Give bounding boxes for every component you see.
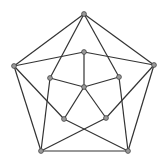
edge-I-J [64,87,84,119]
edge-B-F [14,52,84,66]
edge-C-F [84,52,154,65]
node-J [62,117,67,122]
node-E [126,149,131,154]
edge-G-D [41,78,50,151]
node-F [82,50,87,55]
edge-C-K [106,65,154,118]
node-D [39,149,44,154]
edge-B-D [14,66,41,151]
edge-H-I [84,77,119,87]
node-A [82,12,87,17]
node-H [117,75,122,80]
edge-A-G [50,14,84,78]
edge-A-H [84,14,119,77]
edge-C-E [128,65,154,151]
edge-A-C [84,14,154,65]
graph-edges [14,14,154,151]
edge-A-B [14,14,84,66]
edge-G-I [50,78,84,87]
edge-I-K [84,87,106,118]
graph-diagram [0,0,164,166]
node-I [82,85,87,90]
node-K [104,116,109,121]
node-B [12,64,17,69]
node-G [48,76,53,81]
edge-B-J [14,66,64,119]
node-C [152,63,157,68]
edge-H-E [119,77,128,151]
